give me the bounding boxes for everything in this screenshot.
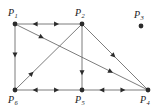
vertex-label-p1: P1 xyxy=(8,8,17,18)
vertex-label-p2: P2 xyxy=(75,8,84,18)
graph-vertex-p6 xyxy=(13,88,18,93)
vertex-label-p6: P6 xyxy=(8,95,17,105)
edge-arrowhead xyxy=(13,53,18,58)
graph-edge xyxy=(15,24,148,90)
graph-vertex-p4 xyxy=(146,88,151,93)
graph-vertex-p1 xyxy=(13,22,18,27)
edge-arrowhead xyxy=(33,22,38,27)
edge-layer xyxy=(15,24,148,90)
edge-arrowhead xyxy=(99,88,104,93)
edge-arrowhead xyxy=(120,88,125,93)
arrowhead-layer xyxy=(13,22,126,93)
directed-graph-figure: P1P2P3P4P5P6 xyxy=(0,0,161,112)
vertex-label-p4: P4 xyxy=(140,95,149,105)
edge-arrowhead xyxy=(80,70,85,75)
vertex-label-p5: P5 xyxy=(75,95,84,105)
graph-edge xyxy=(15,24,82,90)
edge-arrowhead xyxy=(33,88,38,93)
edge-arrowhead xyxy=(54,88,59,93)
vertex-label-p3: P3 xyxy=(134,10,143,20)
graph-vertex-p2 xyxy=(80,22,85,27)
graph-vertex-p5 xyxy=(80,88,85,93)
graph-vertex-p3 xyxy=(139,24,144,29)
edge-arrowhead xyxy=(54,22,59,27)
